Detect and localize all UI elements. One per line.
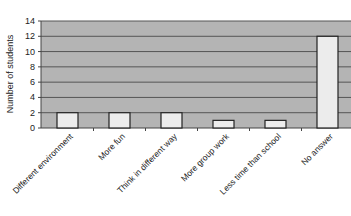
plot-area: 02468101214Different environmentMore fun… (10, 16, 351, 197)
y-tick-label: 8 (30, 62, 35, 72)
y-tick-label: 10 (25, 47, 35, 57)
plot-background (41, 21, 351, 128)
y-tick-label: 4 (30, 92, 35, 102)
bar (161, 113, 182, 128)
y-tick-label: 0 (30, 123, 35, 133)
y-tick-label: 6 (30, 77, 35, 87)
y-tick-label: 2 (30, 108, 35, 118)
bar (265, 120, 286, 128)
bar (57, 113, 78, 128)
x-tick-label: More fun (96, 131, 127, 162)
bar (109, 113, 130, 128)
y-axis-label: Number of students (5, 34, 15, 113)
x-tick-label: No answer (299, 131, 335, 167)
y-tick-label: 14 (25, 16, 35, 26)
y-tick-label: 12 (25, 31, 35, 41)
x-tick-label: More group work (179, 131, 232, 184)
bar (213, 120, 234, 128)
x-tick-label: Different environment (10, 131, 75, 196)
bar (317, 36, 338, 128)
bar-chart: 02468101214Different environmentMore fun… (0, 0, 351, 216)
